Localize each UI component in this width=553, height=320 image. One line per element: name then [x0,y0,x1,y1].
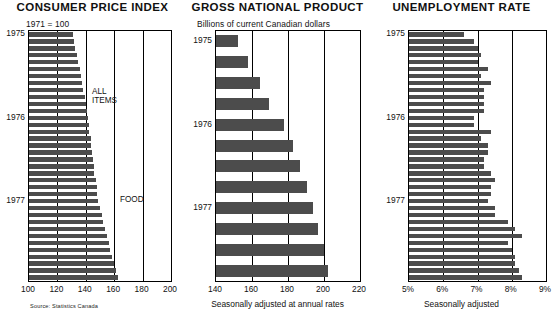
panel-unemployment-rate: UNEMPLOYMENT RATE 5%6%7%8%9% 19751976197… [370,0,553,320]
bar [29,130,89,134]
bar [29,171,94,175]
plot-area-unemployment [408,30,547,282]
bar [216,202,313,214]
chart-title-unemployment: UNEMPLOYMENT RATE [370,1,553,13]
bar [409,213,495,217]
bar [409,234,522,238]
x-tick-label: 9% [539,284,551,294]
bar [409,150,488,154]
bar [216,98,269,110]
bar [216,265,328,277]
year-label: 1976 [6,112,25,122]
bar [409,206,495,210]
series-label: FOOD [120,196,144,205]
bar [409,32,464,36]
x-tick-label: 7% [470,284,482,294]
charts-container: CONSUMER PRICE INDEX 1971 = 100 10012014… [0,0,553,320]
bar [409,143,488,147]
bar [409,164,484,168]
bar [216,160,300,172]
bar [409,39,474,43]
x-tick-label: 6% [436,284,448,294]
bar [409,46,478,50]
bar [409,81,491,85]
bar [409,123,474,127]
panel-gross-national-product: GROSS NATIONAL PRODUCT Billions of curre… [185,0,370,320]
bar [409,248,512,252]
bar [216,119,284,131]
year-label: 1975 [386,28,405,38]
bar [409,199,488,203]
bar [409,130,491,134]
bar [409,74,481,78]
bar [29,261,114,265]
bar [29,123,89,127]
bar [409,192,491,196]
bar [409,185,491,189]
bar [409,102,484,106]
bar [216,77,260,89]
bar [29,46,75,50]
bar [29,241,109,245]
bar [409,109,484,113]
bar [29,234,107,238]
bar [29,199,98,203]
bar [409,88,484,92]
bar [216,223,318,235]
gridline [143,31,144,281]
bar [29,88,83,92]
bar [29,213,102,217]
bar [29,178,96,182]
panel-consumer-price-index: CONSUMER PRICE INDEX 1971 = 100 10012014… [0,0,185,320]
x-tick-label: 160 [106,284,120,294]
bar [29,95,85,99]
x-tick-label: 120 [49,284,63,294]
gridline [512,31,513,281]
bar [29,192,97,196]
series-label: ITEMS [92,97,117,106]
axis-caption-unemployment: Seasonally adjusted [370,299,553,309]
bar [409,67,488,71]
bar [409,268,519,272]
bar [29,150,92,154]
year-label: 1975 [193,35,212,45]
x-tick-label: 180 [135,284,149,294]
bar [409,60,478,64]
x-tick-label: 160 [244,284,258,294]
bar [29,185,97,189]
chart-subtitle-cpi: 1971 = 100 [26,19,69,29]
bar [216,56,248,68]
bar [29,39,74,43]
bar [409,241,508,245]
chart-title-cpi: CONSUMER PRICE INDEX [0,1,185,13]
bar [29,81,82,85]
bar [29,248,110,252]
bar [409,95,484,99]
bar [409,157,484,161]
x-tick-label: 8% [505,284,517,294]
bar [29,74,81,78]
x-tick-label: 100 [21,284,35,294]
x-tick-label: 200 [163,284,177,294]
bar [29,268,116,272]
gridline [114,31,115,281]
bar [216,35,238,47]
bar [29,157,93,161]
x-tick-label: 220 [352,284,366,294]
bar [29,275,118,279]
bar [409,255,515,259]
year-label: 1977 [386,195,405,205]
plot-area-cpi [28,30,172,282]
bar [29,116,88,120]
x-tick-label: 180 [280,284,294,294]
source-note: Source: Statistics Canada [30,303,98,309]
bar [409,275,522,279]
bar [29,53,77,57]
year-label: 1976 [193,119,212,129]
bar [29,143,91,147]
year-label: 1976 [386,112,405,122]
bar [409,53,481,57]
bar [29,60,78,64]
bar [216,244,324,256]
axis-caption-gnp: Seasonally adjusted at annual rates [185,299,370,309]
